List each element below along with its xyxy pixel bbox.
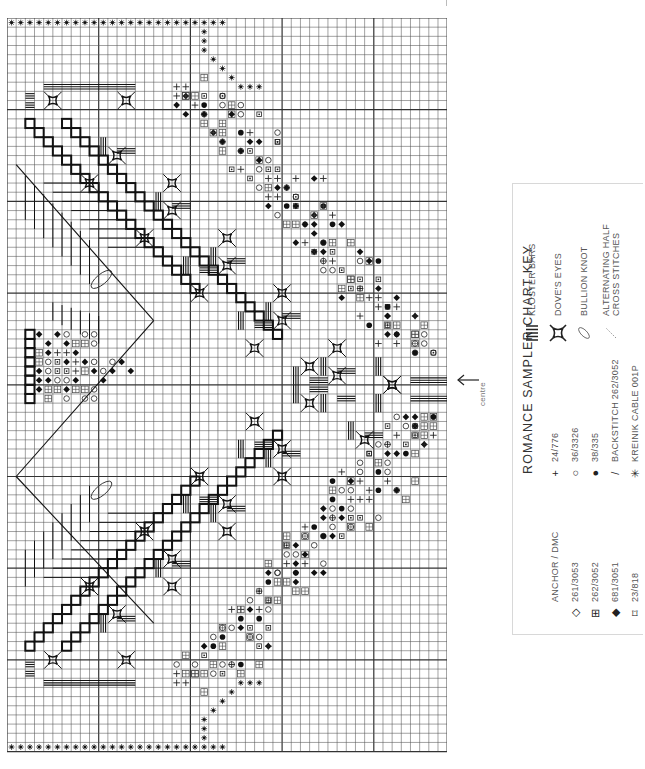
key-item-label: 23/818 (630, 573, 640, 602)
key-item: ALTERNATING HALF CROSS STITCHES (597, 224, 625, 344)
open-diamond-icon: ◇ (569, 602, 582, 624)
chart-key-panel: ROMANCE SAMPLER CHART KEY ANCHOR / DMC ◇… (512, 183, 643, 635)
key-item: ◇ 261/3053 (565, 531, 585, 624)
filled-circle-icon: ● (589, 462, 601, 484)
key-item-label: 36/3326 (570, 427, 580, 462)
key-item: DOVE'S EYES (545, 224, 571, 344)
key-item-label: 261/3053 (570, 562, 580, 602)
key-item: ○ 36/3326 (565, 359, 585, 484)
kloster-bars-icon (525, 322, 539, 344)
key-item-label: KLOSTER BARS (527, 243, 537, 322)
square-lozenge-icon: ⌑ (629, 602, 642, 624)
key-item-label: 24/776 (550, 433, 560, 462)
doves-eye-icon (549, 322, 567, 344)
key-item-label: BULLION KNOT (579, 246, 589, 322)
key-item-label-line2: CROSS STITCHES (611, 224, 621, 316)
key-item-label: KREINIK CABLE 001P (630, 365, 640, 462)
key-item: + 24/776 (545, 359, 565, 484)
open-circle-icon: ○ (569, 462, 581, 484)
page-crop-mark (446, 0, 451, 6)
key-item: BULLION KNOT (571, 224, 597, 344)
key-item: / BACKSTITCH 262/3052 (605, 359, 625, 484)
key-item: KLOSTER BARS (519, 224, 545, 344)
boxed-plus-icon: ⊞ (589, 602, 602, 624)
cross-stitch-chart (7, 18, 447, 757)
asterisk-star-icon: ✳ (629, 462, 642, 484)
key-column-stitches: KLOSTER BARS DOVE'S EYES BULLION KNOT (519, 224, 625, 344)
key-column-threads-1: ANCHOR / DMC ◇ 261/3053 ⊞ 262/3052 ◆ 681… (545, 531, 645, 624)
chart-grid (7, 18, 447, 757)
key-item-label: 262/3052 (590, 562, 600, 602)
centre-marker: centre (452, 360, 492, 420)
key-item: ⌑ 23/818 (625, 531, 645, 624)
bullion-knot-icon (577, 322, 591, 344)
plus-icon: + (549, 462, 561, 484)
key-item: ● 38/335 (585, 359, 605, 484)
left-arrow-icon (456, 374, 480, 386)
key-item-label: BACKSTITCH 262/3052 (610, 359, 620, 462)
key-header: ANCHOR / DMC (545, 531, 565, 624)
key-item: ◆ 681/3051 (605, 531, 625, 624)
backstitch-line-icon: / (609, 462, 621, 484)
filled-diamond-icon: ◆ (609, 602, 622, 624)
key-item-label: ALTERNATING HALF (601, 224, 611, 316)
key-item: ✳ KREINIK CABLE 001P (625, 359, 645, 484)
half-cross-icon (604, 322, 618, 344)
key-item: ⊞ 262/3052 (585, 531, 605, 624)
centre-label: centre (478, 382, 487, 406)
key-item-label: DOVE'S EYES (553, 253, 563, 322)
key-item-label: 38/335 (590, 433, 600, 462)
key-item-label: 681/3051 (610, 562, 620, 602)
key-column-threads-2: + 24/776 ○ 36/3326 ● 38/335 / BACKSTITCH… (545, 359, 645, 484)
